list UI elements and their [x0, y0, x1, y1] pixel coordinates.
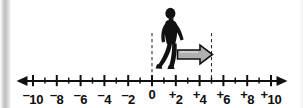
label-digits: 0 [148, 87, 155, 102]
axis-tick-label: +6 [216, 87, 230, 107]
axis-arrowhead-right [277, 76, 288, 86]
axis-tick-label: +8 [240, 87, 254, 107]
label-digits: 4 [200, 92, 207, 107]
label-digits: 4 [104, 92, 111, 107]
number-line-figure: –10–8–6–4–20+2+4+6+8+10 [0, 0, 303, 108]
axis-tick-label: –4 [98, 87, 112, 107]
axis-tick-label: +10 [261, 87, 282, 107]
axis-tick-label: –8 [50, 87, 64, 107]
axis-tick-label: –10 [23, 87, 44, 107]
label-digits: 10 [267, 92, 281, 107]
axis-tick-label: –6 [74, 87, 88, 107]
tick-group [33, 75, 271, 86]
label-digits: 2 [128, 92, 135, 107]
axis-tick-label: 0 [148, 87, 155, 102]
motion-arrow-icon [178, 45, 213, 64]
axis-tick-label: –2 [121, 87, 135, 107]
label-digits: 8 [57, 92, 64, 107]
label-digits: 2 [176, 92, 183, 107]
label-digits: 6 [223, 92, 230, 107]
walking-person-icon [156, 8, 184, 69]
label-digits: 8 [247, 92, 254, 107]
label-digits: 10 [29, 92, 43, 107]
axis-tick-label: +4 [193, 87, 207, 107]
axis-tick-label: +2 [169, 87, 183, 107]
label-digits: 6 [80, 92, 87, 107]
axis-arrowhead-left [17, 76, 28, 86]
